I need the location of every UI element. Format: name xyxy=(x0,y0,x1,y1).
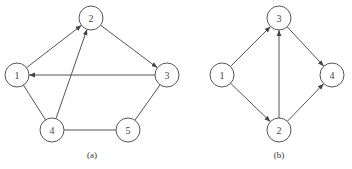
node-label: 1 xyxy=(220,70,225,81)
graph-a: 12345 xyxy=(5,6,179,142)
edge-a-4-2 xyxy=(56,29,87,118)
node-label: 1 xyxy=(15,70,20,81)
node-a-3: 3 xyxy=(155,63,179,87)
node-label: 3 xyxy=(277,13,282,24)
node-a-2: 2 xyxy=(79,6,103,30)
edge-b-3-4 xyxy=(287,27,324,66)
node-label: 4 xyxy=(330,70,335,81)
edge-b-1-2 xyxy=(231,83,271,121)
edge-a-1-2 xyxy=(27,25,82,67)
node-b-4: 4 xyxy=(320,63,344,87)
edge-a-1-4 xyxy=(23,85,45,120)
diagram-canvas: 12345 1342 (a) (b) xyxy=(0,0,352,169)
node-b-3: 3 xyxy=(267,6,291,30)
node-label: 2 xyxy=(89,13,94,24)
edge-a-5-3 xyxy=(135,85,160,120)
node-label: 5 xyxy=(126,125,131,136)
caption-a: (a) xyxy=(87,150,97,160)
edge-b-1-3 xyxy=(230,26,270,66)
node-a-5: 5 xyxy=(116,118,140,142)
edge-b-2-4 xyxy=(287,84,323,122)
graph-b: 1342 xyxy=(210,6,344,142)
node-b-2: 2 xyxy=(267,118,291,142)
caption-b: (b) xyxy=(274,150,285,160)
node-label: 2 xyxy=(277,125,282,136)
edge-a-2-3 xyxy=(101,25,158,68)
node-label: 4 xyxy=(50,125,55,136)
node-a-1: 1 xyxy=(5,63,29,87)
node-a-4: 4 xyxy=(40,118,64,142)
node-label: 3 xyxy=(165,70,170,81)
node-b-1: 1 xyxy=(210,63,234,87)
